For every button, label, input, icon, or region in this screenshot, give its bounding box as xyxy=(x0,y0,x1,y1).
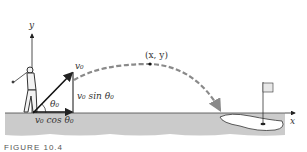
angle-label: θ₀ xyxy=(50,99,59,109)
figure-caption: FIGURE 10.4 xyxy=(4,143,63,152)
point-label: (x, y) xyxy=(145,50,168,60)
horizontal-component-label: v₀ cos θ₀ xyxy=(35,115,74,125)
projectile-diagram: x y (x, y) v₀ v₀ sin θ₀ v₀ cos θ₀ θ₀ FIG… xyxy=(0,0,307,152)
golfer xyxy=(12,67,37,112)
trajectory-point xyxy=(148,62,151,65)
v0-label: v₀ xyxy=(75,61,84,71)
x-axis-label: x xyxy=(290,116,295,126)
trajectory-path xyxy=(74,64,220,110)
flag xyxy=(263,83,273,92)
y-axis-label: y xyxy=(28,20,35,30)
hole xyxy=(261,123,266,125)
vertical-component-label: v₀ sin θ₀ xyxy=(77,91,114,101)
